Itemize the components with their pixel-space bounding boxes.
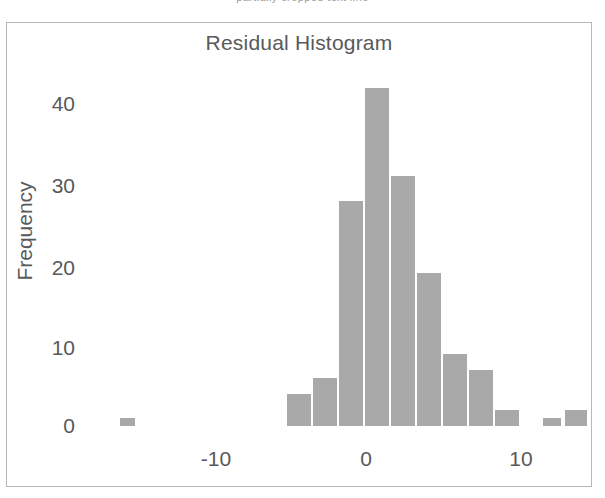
chart-figure: Residual Histogram Frequency 0 10 20 30 … [6, 22, 592, 487]
histogram-bar [443, 354, 467, 426]
x-tick-label: 10 [481, 447, 561, 471]
histogram-bar [495, 410, 519, 426]
histogram-bar [339, 201, 363, 426]
histogram-bar [565, 410, 587, 426]
histogram-bar [120, 418, 135, 426]
histogram-bar [287, 394, 311, 426]
plot-area: Frequency 0 10 20 30 40 -10 0 10 [7, 23, 591, 486]
histogram-bar [365, 88, 389, 426]
x-tick-label: 0 [326, 447, 406, 471]
histogram-bar [469, 370, 493, 426]
histogram-bar [313, 378, 337, 426]
histogram-bar [417, 273, 441, 426]
histogram-bars [7, 23, 591, 426]
cropped-header-text: partially cropped text line [0, 0, 605, 14]
histogram-bar [391, 176, 415, 426]
x-tick-label: -10 [176, 447, 256, 471]
histogram-bar [543, 418, 561, 426]
